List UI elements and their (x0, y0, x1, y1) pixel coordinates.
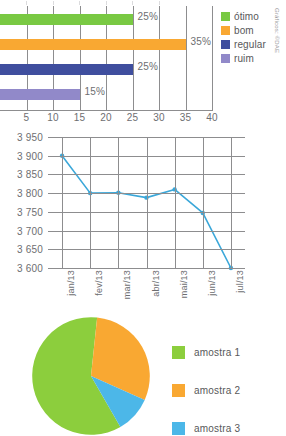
bar-chart-bar-fill (0, 14, 133, 25)
line-chart-x-tick-label: fev/13 (94, 270, 104, 296)
bar-chart-bar: 35% (0, 39, 212, 50)
bar-chart-bar-fill (0, 89, 80, 100)
pie-chart-legend: amostra 1amostra 2amostra 3 (172, 310, 286, 432)
legend-swatch-icon (221, 54, 230, 63)
line-chart: 3 6003 6503 7003 7503 8003 8503 9003 950… (0, 133, 286, 308)
line-chart-x-tick-label: jan/13 (66, 270, 76, 296)
line-chart-vertical-gridline (175, 137, 176, 268)
legend-swatch-icon (172, 346, 185, 359)
bar-chart-x-tick-label: 40 (206, 112, 218, 123)
line-chart-vertical-gridline (62, 137, 63, 268)
pie-chart: amostra 1amostra 2amostra 3 (0, 310, 286, 432)
bar-chart-legend-item: ruim (221, 52, 269, 65)
bar-chart-bar: 25% (0, 64, 212, 75)
bar-chart-legend-item: ótimo (221, 10, 269, 23)
legend-swatch-icon (221, 40, 230, 49)
line-chart-x-tick-label: mai/13 (179, 270, 189, 298)
bar-chart-value-label: 25% (138, 11, 159, 22)
bar-chart-bar: 25% (0, 14, 212, 25)
bar-chart-x-tick-label: 35 (180, 112, 192, 123)
bar-chart-legend-item: regular (221, 38, 269, 51)
line-chart-x-tick-label: mar/13 (122, 270, 132, 299)
horizontal-bar-chart: 25%35%25%15% 510152025303540 ótimobomreg… (0, 0, 286, 131)
pie-chart-legend-label: amostra 3 (194, 423, 240, 434)
line-chart-y-tick-label: 3 800 (17, 188, 43, 199)
credit-label: Gráficos: ©DAE (274, 8, 280, 53)
bar-chart-bar-fill (0, 39, 186, 50)
line-chart-plot-area (48, 137, 245, 268)
line-chart-vertical-gridline (147, 137, 148, 268)
line-chart-vertical-gridline (118, 137, 119, 268)
pie-chart-legend-item: amostra 1 (172, 346, 240, 359)
line-chart-y-tick-label: 3 850 (17, 169, 43, 180)
line-chart-vertical-gridline (203, 137, 204, 268)
line-chart-y-tick-label: 3 600 (17, 263, 43, 274)
bar-chart-bar-fill (0, 64, 133, 75)
line-chart-x-tick-labels: jan/13fev/13mar/13abr/13mai/13jun/13jul/… (48, 270, 245, 308)
bar-chart-legend: ótimobomregularruim (221, 10, 269, 66)
pie-chart-legend-label: amostra 1 (194, 347, 240, 358)
bar-chart-legend-label: bom (234, 25, 254, 36)
bar-chart-gridline (212, 6, 213, 111)
bar-chart-x-tick-label: 20 (100, 112, 112, 123)
line-chart-y-tick-label: 3 950 (17, 132, 43, 143)
legend-swatch-icon (172, 384, 185, 397)
bar-chart-value-label: 35% (191, 36, 212, 47)
bar-chart-x-tick-label: 15 (74, 112, 86, 123)
line-chart-x-tick-label: jun/13 (207, 270, 217, 296)
bar-chart-x-tick-label: 10 (47, 112, 59, 123)
legend-swatch-icon (221, 12, 230, 21)
pie-chart-slices (31, 316, 151, 436)
bar-chart-x-tick-labels: 510152025303540 (0, 112, 212, 126)
bar-chart-x-tick-label: 30 (153, 112, 165, 123)
bar-chart-value-label: 15% (85, 86, 106, 97)
bar-chart-bar: 15% (0, 89, 212, 100)
pie-chart-legend-label: amostra 2 (194, 385, 240, 396)
bar-chart-x-tick-label: 5 (24, 112, 30, 123)
bar-chart-legend-label: ruim (234, 53, 254, 64)
line-chart-x-tick-label: jul/13 (235, 270, 245, 293)
bar-chart-legend-item: bom (221, 24, 269, 37)
bar-chart-legend-label: regular (234, 39, 266, 50)
bar-chart-value-label: 25% (138, 61, 159, 72)
pie-chart-legend-item: amostra 3 (172, 422, 240, 435)
bar-chart-legend-label: ótimo (234, 11, 259, 22)
line-chart-vertical-gridline (90, 137, 91, 268)
bar-chart-x-tick-label: 25 (127, 112, 139, 123)
line-chart-y-tick-label: 3 900 (17, 150, 43, 161)
bar-chart-plot-area: 25%35%25%15% (0, 6, 212, 111)
credit-text: Gráficos: ©DAE (275, 8, 285, 70)
line-chart-vertical-gridline (231, 137, 232, 268)
line-chart-y-tick-label: 3 750 (17, 206, 43, 217)
line-chart-x-tick-label: abr/13 (151, 270, 161, 297)
line-chart-y-tick-labels: 3 6003 6503 7003 7503 8003 8503 9003 950 (0, 133, 46, 273)
pie-chart-legend-item: amostra 2 (172, 384, 240, 397)
legend-swatch-icon (221, 26, 230, 35)
line-chart-y-tick-label: 3 700 (17, 225, 43, 236)
line-chart-y-tick-label: 3 650 (17, 244, 43, 255)
legend-swatch-icon (172, 422, 185, 435)
